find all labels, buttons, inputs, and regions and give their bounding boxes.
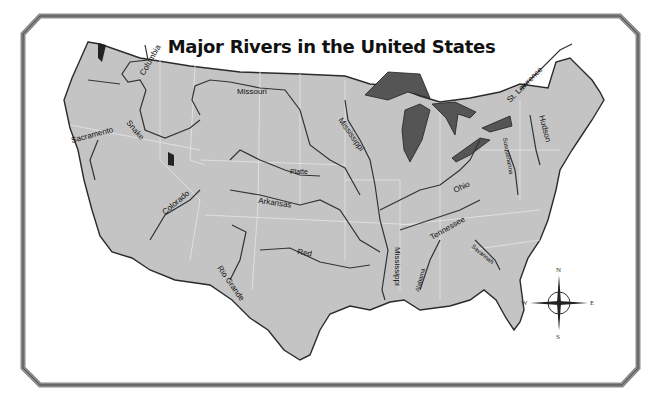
compass-south: S — [556, 333, 560, 341]
river-label-mississippi-south: Mississippi — [393, 247, 402, 286]
compass-north: N — [556, 266, 561, 274]
map-title: Major Rivers in the United States — [0, 36, 663, 57]
compass-east: E — [590, 299, 594, 307]
compass-west: W — [521, 299, 528, 307]
river-label-missouri: Missouri — [237, 87, 267, 96]
map-frame: Columbia Missouri Snake Sacramento Missi… — [0, 0, 663, 403]
river-label-platte: Platte — [290, 168, 308, 175]
